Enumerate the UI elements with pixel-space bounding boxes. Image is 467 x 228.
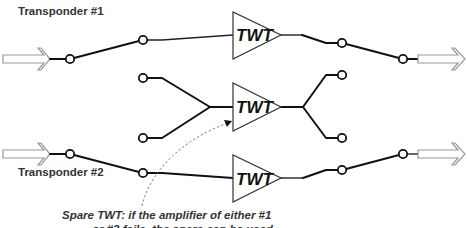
switch-node-spare-out-1 xyxy=(338,71,346,79)
wire-spare-in-lower xyxy=(147,107,210,138)
switch-arm-top-out2 xyxy=(346,44,399,58)
output-arrow-1 xyxy=(418,48,465,70)
twt-amplifier-bottom: TWT xyxy=(233,155,281,202)
wire-spare-out-lower xyxy=(303,107,338,138)
wire-top-to-twt xyxy=(147,35,233,40)
input-arrow-1 xyxy=(3,48,50,70)
switch-node-top-1 xyxy=(66,55,74,63)
switch-arm-bottom-out2 xyxy=(346,155,399,169)
switch-node-spare-in-1 xyxy=(139,74,147,82)
switch-node-bottom-3 xyxy=(338,166,346,174)
redundancy-diagram: Transponder #1 TWT TWT TWT xyxy=(0,0,467,228)
caption-line-2: or #2 fails, the spare can be used xyxy=(92,223,274,228)
caption-line-1: Spare TWT: if the amplifier of either #1 xyxy=(62,209,271,221)
transponder-2-label: Transponder #2 xyxy=(18,166,104,178)
twt-amplifier-spare: TWT xyxy=(233,83,281,131)
switch-node-top-2 xyxy=(139,36,147,44)
switch-arm-top-in xyxy=(74,41,139,58)
switch-node-bottom-4 xyxy=(399,150,407,158)
svg-text:TWT: TWT xyxy=(236,98,274,117)
annotation-arrowhead-icon xyxy=(224,120,232,127)
switch-node-top-3 xyxy=(338,39,346,47)
switch-node-top-4 xyxy=(399,55,407,63)
svg-text:TWT: TWT xyxy=(236,26,274,45)
twt-amplifier-top: TWT xyxy=(233,12,281,59)
switch-arm-top-out1 xyxy=(302,35,338,43)
wire-bottom-to-twt xyxy=(147,173,233,178)
input-arrow-2 xyxy=(3,143,50,165)
switch-node-spare-out-2 xyxy=(338,134,346,142)
switch-node-bottom-1 xyxy=(66,150,74,158)
switch-node-bottom-2 xyxy=(139,169,147,177)
wire-spare-in-upper xyxy=(147,78,210,107)
transponder-1-label: Transponder #1 xyxy=(18,5,104,17)
output-arrow-2 xyxy=(418,143,465,165)
switch-node-spare-in-2 xyxy=(139,134,147,142)
svg-text:TWT: TWT xyxy=(236,170,274,189)
wire-spare-out-upper xyxy=(303,75,338,107)
annotation-pointer xyxy=(142,123,228,206)
switch-arm-bottom-out1 xyxy=(303,170,338,178)
